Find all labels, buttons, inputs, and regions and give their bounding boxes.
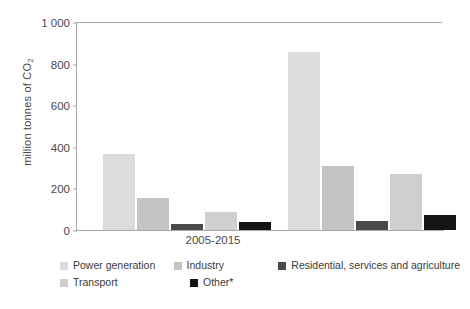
y-axis-tick-label: 600 (0, 100, 77, 112)
y-axis-tick-label: 200 (0, 183, 77, 195)
bar (205, 212, 237, 230)
legend-label: Industry (187, 259, 224, 272)
y-axis-tick-mark (73, 64, 77, 65)
legend-swatch-icon (174, 262, 182, 270)
bar-chart: million tonnes of CO2 02004006008001 000… (0, 0, 470, 309)
bar-group: 2005-2015 (103, 22, 271, 230)
bar (239, 222, 271, 230)
y-axis-tick-label: 400 (0, 142, 77, 154)
y-axis-tick-mark (73, 147, 77, 148)
y-axis-tick-mark (73, 189, 77, 190)
bar (103, 154, 135, 230)
legend-item[interactable]: Other* (190, 276, 310, 289)
bar (137, 198, 169, 230)
x-axis-tick-label: 2005-2015 (133, 234, 293, 246)
y-axis-tick-label: 1 000 (0, 17, 77, 29)
bar (356, 221, 388, 230)
legend-swatch-icon (60, 279, 68, 287)
legend-row: Power generationIndustryResidential, ser… (60, 259, 460, 272)
y-axis-tick-label: 0 (0, 225, 77, 237)
bar (288, 52, 320, 230)
legend-item[interactable]: Power generation (60, 259, 174, 272)
x-axis-line (76, 230, 444, 231)
legend-swatch-icon (278, 262, 286, 270)
legend-label: Residential, services and agriculture (291, 259, 460, 272)
chart-legend: Power generationIndustryResidential, ser… (60, 259, 460, 293)
y-axis-tick-label: 800 (0, 59, 77, 71)
bar (390, 174, 422, 230)
legend-label: Power generation (73, 259, 155, 272)
legend-item[interactable]: Industry (174, 259, 279, 272)
legend-label: Transport (73, 276, 118, 289)
y-axis-tick-mark (73, 106, 77, 107)
legend-swatch-icon (60, 262, 68, 270)
plot-area: 02004006008001 0002005-20152015-2030 (76, 22, 442, 230)
y-axis-tick-mark (73, 23, 77, 24)
legend-item[interactable]: Transport (60, 276, 190, 289)
bar (322, 166, 354, 230)
bar (424, 215, 456, 230)
legend-item[interactable]: Residential, services and agriculture (278, 259, 460, 272)
legend-label: Other* (203, 276, 233, 289)
legend-swatch-icon (190, 279, 198, 287)
legend-row: TransportOther* (60, 276, 460, 289)
bar-group: 2015-2030 (288, 22, 456, 230)
